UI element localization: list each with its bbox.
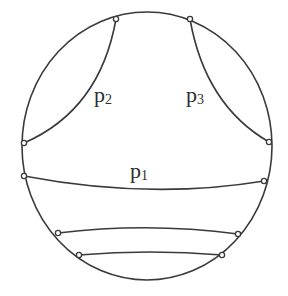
endpoint-marker-p1-start: [21, 173, 26, 178]
endpoint-markers: [21, 16, 271, 257]
endpoint-marker-chord4-end: [235, 231, 240, 236]
endpoint-marker-chord5-start: [76, 252, 81, 257]
label-p3-sub: 3: [197, 92, 204, 107]
label-p1-sub: 1: [141, 168, 148, 183]
label-p1-base: p: [130, 158, 141, 183]
diagram-canvas: p2 p3 p1: [0, 0, 288, 296]
endpoint-marker-p1-end: [261, 178, 266, 183]
disk-diagram: [0, 0, 288, 296]
curve-p3: [190, 19, 269, 142]
label-p2-base: p: [94, 82, 105, 107]
endpoint-marker-chord4-start: [55, 230, 60, 235]
label-p1: p1: [130, 160, 148, 183]
chord-lower-1: [58, 228, 238, 234]
label-p2-sub: 2: [105, 92, 112, 107]
endpoint-marker-p3-end: [266, 139, 271, 144]
boundary-circle: [22, 12, 272, 280]
endpoint-marker-p3-start: [187, 16, 192, 21]
label-p3-base: p: [186, 82, 197, 107]
chord-lower-2: [79, 252, 222, 255]
endpoint-marker-p2-end: [21, 140, 26, 145]
label-p2: p2: [94, 84, 112, 107]
label-p3: p3: [186, 84, 204, 107]
endpoint-marker-p2-start: [113, 16, 118, 21]
endpoint-marker-chord5-end: [219, 252, 224, 257]
